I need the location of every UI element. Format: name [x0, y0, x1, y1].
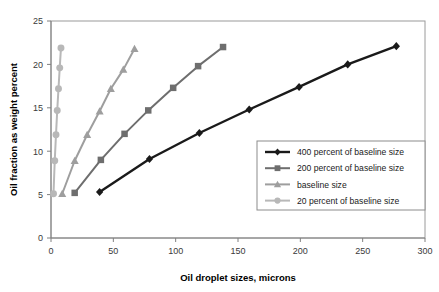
- chart-container: 0510152025050100150200250300 Oil droplet…: [0, 0, 439, 292]
- x-tick-label: 150: [230, 246, 245, 256]
- series-point: [54, 107, 61, 114]
- x-axis-title: Oil droplet sizes, microns: [180, 272, 296, 283]
- series-point: [344, 60, 351, 68]
- x-tick-label: 100: [168, 246, 183, 256]
- legend-swatch-marker: [275, 165, 281, 171]
- series-point: [83, 131, 91, 138]
- y-tick-label: 25: [33, 16, 43, 26]
- series-point: [246, 105, 253, 113]
- series-point: [51, 157, 58, 164]
- y-tick-label: 15: [33, 103, 43, 113]
- x-tick-label: 250: [355, 246, 370, 256]
- series-point: [58, 190, 66, 197]
- series-point: [56, 64, 63, 71]
- series-point: [195, 63, 201, 69]
- series-point: [295, 83, 302, 91]
- series-point: [170, 85, 176, 91]
- series-point: [58, 44, 65, 51]
- series-point: [98, 157, 104, 163]
- series-3: [50, 44, 64, 197]
- y-tick-label: 10: [33, 147, 43, 157]
- series-point: [71, 190, 77, 196]
- series-point: [53, 131, 60, 138]
- series-point: [50, 190, 57, 197]
- chart-legend[interactable]: 400 percent of baseline size200 percent …: [257, 141, 425, 210]
- series-point: [393, 42, 400, 50]
- x-tick-label: 300: [417, 246, 432, 256]
- y-tick-label: 20: [33, 60, 43, 70]
- axis-tick-labels: 0510152025050100150200250300: [33, 16, 433, 256]
- series-point: [96, 107, 104, 114]
- series-point: [71, 157, 79, 164]
- x-tick-label: 50: [108, 246, 118, 256]
- series-point: [55, 85, 62, 92]
- y-tick-label: 5: [38, 190, 43, 200]
- legend-swatch-marker: [274, 198, 280, 204]
- legend-label: 20 percent of baseline size: [297, 196, 399, 206]
- series-point: [145, 107, 151, 113]
- legend-label: baseline size: [297, 180, 347, 190]
- series-point: [130, 45, 138, 52]
- series-point: [196, 129, 203, 137]
- series-point: [220, 44, 226, 50]
- y-axis-title: Oil fraction as weight percent: [8, 62, 19, 196]
- series-point: [119, 66, 127, 73]
- y-tick-label: 0: [38, 233, 43, 243]
- chart-canvas: 0510152025050100150200250300 Oil droplet…: [0, 0, 439, 292]
- series-point: [121, 131, 127, 137]
- x-tick-label: 0: [48, 246, 53, 256]
- x-tick-label: 200: [293, 246, 308, 256]
- legend-label: 200 percent of baseline size: [297, 163, 404, 173]
- legend-label: 400 percent of baseline size: [297, 147, 404, 157]
